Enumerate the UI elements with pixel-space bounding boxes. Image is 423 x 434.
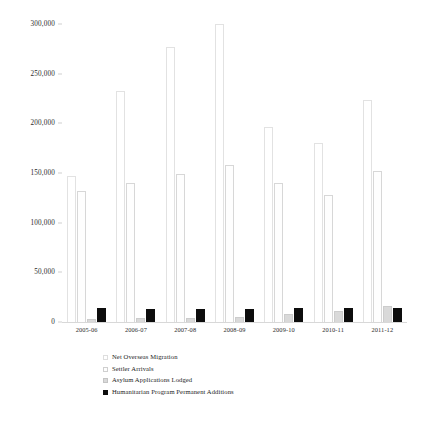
bar-group-inner [308, 24, 357, 322]
y-axis-tick-label: 50,000 [34, 268, 55, 276]
y-axis-tick-label: 150,000 [31, 169, 55, 177]
bar-series-0 [67, 176, 76, 322]
legend-swatch-icon [103, 390, 108, 395]
bar-series-1 [274, 183, 283, 322]
bar-group-inner [62, 24, 111, 322]
legend-item: Humanitarian Program Permanent Additions [103, 387, 403, 399]
x-axis-tick-label: 2010-11 [308, 326, 357, 333]
bar-series-3 [146, 309, 155, 322]
bar-series-1 [373, 171, 382, 322]
bar-series-3 [294, 308, 303, 322]
plot-area [62, 24, 407, 322]
bar-group-inner [210, 24, 259, 322]
y-axis-tick-label: 0 [51, 318, 55, 326]
x-axis-tick-label: 2005-06 [62, 326, 111, 333]
y-axis-tick-label: 100,000 [31, 219, 55, 227]
legend-swatch-icon [103, 367, 108, 372]
bar-series-2 [383, 306, 392, 322]
bar-series-2 [235, 317, 244, 322]
bar-series-0 [215, 24, 224, 322]
bar-series-0 [264, 127, 273, 322]
y-axis-tick-label: 200,000 [31, 119, 55, 127]
bar-group [358, 24, 407, 322]
y-axis-tick-label: 250,000 [31, 70, 55, 78]
legend-swatch-icon [103, 355, 108, 360]
bar-group-inner [161, 24, 210, 322]
bar-series-3 [196, 309, 205, 322]
legend-item: Net Overseas Migration [103, 352, 403, 364]
bar-group [111, 24, 160, 322]
x-axis-tick-label: 2011-12 [358, 326, 407, 333]
bar-series-3 [393, 308, 402, 322]
bar-series-1 [225, 165, 234, 322]
x-axis-tick-label: 2006-07 [111, 326, 160, 333]
bar-group-inner [111, 24, 160, 322]
bar-series-1 [126, 183, 135, 322]
bar-group [308, 24, 357, 322]
bar-series-2 [87, 319, 96, 322]
bar-series-1 [324, 195, 333, 322]
x-axis-line [62, 322, 407, 323]
bar-series-1 [77, 191, 86, 322]
bar-series-2 [284, 314, 293, 322]
chart-legend: Net Overseas MigrationSettler ArrivalsAs… [103, 352, 403, 398]
legend-label: Asylum Applications Lodged [112, 377, 192, 384]
bar-group-inner [259, 24, 308, 322]
legend-item: Asylum Applications Lodged [103, 375, 403, 387]
x-axis-tick-label: 2007-08 [161, 326, 210, 333]
bar-group [210, 24, 259, 322]
x-axis-tick-label: 2009-10 [259, 326, 308, 333]
bar-group [62, 24, 111, 322]
bar-series-0 [166, 47, 175, 322]
x-axis-tick-label: 2008-09 [210, 326, 259, 333]
legend-swatch-icon [103, 378, 108, 383]
bar-series-0 [363, 100, 372, 322]
bar-series-3 [245, 309, 254, 322]
legend-label: Humanitarian Program Permanent Additions [112, 389, 234, 396]
bar-group [161, 24, 210, 322]
bar-series-2 [334, 311, 343, 322]
legend-item: Settler Arrivals [103, 364, 403, 376]
bar-series-0 [314, 143, 323, 322]
bar-series-1 [176, 174, 185, 322]
bar-series-3 [97, 308, 106, 322]
bar-series-2 [136, 318, 145, 322]
bar-series-2 [186, 318, 195, 322]
legend-label: Net Overseas Migration [112, 354, 178, 361]
y-axis-tick-label: 300,000 [31, 20, 55, 28]
bar-series-0 [116, 91, 125, 322]
legend-label: Settler Arrivals [112, 366, 154, 373]
bar-group-inner [358, 24, 407, 322]
bar-chart: 050,000100,000150,000200,000250,000300,0… [0, 0, 423, 434]
bar-series-3 [344, 308, 353, 322]
bar-group [259, 24, 308, 322]
y-axis: 050,000100,000150,000200,000250,000300,0… [0, 0, 62, 340]
